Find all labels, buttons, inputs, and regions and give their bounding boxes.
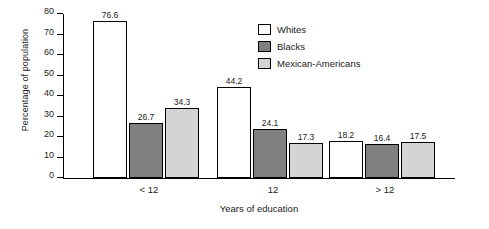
bar-whites-12: 44.2 (217, 87, 251, 178)
bar-mexican-americans-lt12: 34.3 (165, 108, 199, 178)
y-tick-40: 40 (57, 95, 63, 96)
y-tick-label-40: 40 (44, 88, 54, 98)
bar-value-blacks-12: 24.1 (262, 118, 279, 128)
legend-label-mexican-americans: Mexican-Americans (277, 58, 360, 69)
legend-item-whites: Whites (258, 22, 360, 37)
y-tick-label-80: 80 (44, 6, 54, 16)
bar-value-whites-12: 44.2 (226, 76, 243, 86)
bar-blacks-gt12: 16.4 (365, 144, 399, 178)
legend-item-mexican-americans: Mexican-Americans (258, 56, 360, 71)
legend-swatch-blacks (258, 41, 271, 52)
bar-mexican-americans-12: 17.3 (289, 143, 323, 179)
bar-blacks-12: 24.1 (253, 129, 287, 178)
x-axis-line (63, 178, 455, 179)
y-tick-0: 0 (57, 177, 63, 178)
bar-value-mexican-americans-gt12: 17.5 (410, 131, 427, 141)
x-tick-label-12: 12 (213, 184, 333, 195)
x-tick-label-gt12: > 12 (325, 184, 445, 195)
bar-value-blacks-gt12: 16.4 (374, 133, 391, 143)
bar-value-mexican-americans-lt12: 34.3 (174, 97, 191, 107)
y-axis-line (63, 14, 64, 179)
y-tick-70: 70 (57, 34, 63, 35)
legend: Whites Blacks Mexican-Americans (258, 22, 360, 73)
y-tick-60: 60 (57, 54, 63, 55)
y-tick-label-20: 20 (44, 129, 54, 139)
bar-whites-lt12: 76.6 (93, 21, 127, 178)
y-tick-label-0: 0 (49, 170, 54, 180)
y-tick-label-30: 30 (44, 109, 54, 119)
bar-value-blacks-lt12: 26.7 (138, 112, 155, 122)
legend-label-blacks: Blacks (277, 41, 305, 52)
legend-item-blacks: Blacks (258, 39, 360, 54)
y-tick-label-70: 70 (44, 27, 54, 37)
bar-mexican-americans-gt12: 17.5 (401, 142, 435, 178)
bar-blacks-lt12: 26.7 (129, 123, 163, 178)
bar-group-lt12: 76.6 26.7 34.3 < 12 (89, 14, 209, 178)
y-tick-10: 10 (57, 157, 63, 158)
x-tick-label-lt12: < 12 (89, 184, 209, 195)
legend-swatch-mexican-americans (258, 58, 271, 69)
y-axis-title: Percentage of population (20, 0, 30, 165)
y-tick-30: 30 (57, 116, 63, 117)
y-tick-80: 80 (57, 13, 63, 14)
bar-value-whites-lt12: 76.6 (102, 10, 119, 20)
bar-value-mexican-americans-12: 17.3 (298, 132, 315, 142)
y-tick-label-10: 10 (44, 150, 54, 160)
y-tick-label-60: 60 (44, 47, 54, 57)
bar-whites-gt12: 18.2 (329, 141, 363, 178)
legend-label-whites: Whites (277, 24, 306, 35)
y-tick-label-50: 50 (44, 68, 54, 78)
y-tick-50: 50 (57, 75, 63, 76)
x-axis-title: Years of education (63, 203, 455, 214)
legend-swatch-whites (258, 24, 271, 35)
bar-value-whites-gt12: 18.2 (338, 130, 355, 140)
bar-chart: Percentage of population 0 10 20 30 40 5… (0, 0, 489, 229)
y-tick-20: 20 (57, 136, 63, 137)
